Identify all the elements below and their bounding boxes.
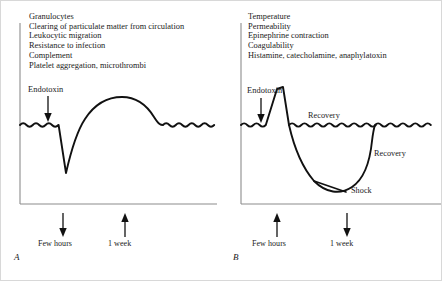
effect-line: Complement (29, 51, 184, 61)
tick-label-few-hours-b: Few hours (252, 239, 286, 249)
tick-label-one-week-b: 1 week (330, 239, 353, 249)
effect-line: Resistance to infection (29, 41, 184, 51)
effect-line: Coagulability (248, 41, 387, 51)
baseline-wave-b (289, 123, 376, 126)
effect-line: Clearing of particulate matter from circ… (29, 22, 184, 32)
endotoxin-label-b: Endotoxin (247, 86, 282, 96)
shock-label-b: Shock (351, 186, 372, 196)
panel-letter-b: B (233, 252, 239, 262)
effect-line: Permeability (248, 22, 387, 32)
tick-arrow-one-week-b (343, 213, 350, 237)
response-curve-b (241, 87, 431, 192)
panel-a: Granulocytes Clearing of particulate mat… (1, 1, 222, 281)
recovery-label-lower-b: Recovery (374, 149, 406, 159)
effects-list-b: Temperature Permeability Epinephrine con… (248, 12, 387, 61)
tick-label-few-hours-a: Few hours (38, 239, 72, 249)
effect-line: Epinephrine contraction (248, 31, 387, 41)
effects-list-a: Granulocytes Clearing of particulate mat… (29, 12, 184, 70)
endotoxin-arrow-a (44, 96, 51, 122)
recovery-label-upper-b: Recovery (308, 111, 340, 121)
tick-arrow-few-hours-b (273, 213, 280, 237)
tick-arrow-one-week-a (121, 213, 128, 237)
response-curve-a (20, 97, 214, 173)
panel-letter-a: A (14, 252, 20, 262)
tick-label-one-week-a: 1 week (108, 239, 131, 249)
endotoxin-arrow-b (257, 98, 264, 123)
effect-line: Leukocytic migration (29, 31, 184, 41)
figure-container: Granulocytes Clearing of particulate mat… (0, 0, 442, 281)
effect-line: Granulocytes (29, 12, 184, 22)
tick-arrow-few-hours-a (59, 213, 66, 237)
effect-line: Platelet aggregation, microthrombi (29, 61, 184, 71)
panel-b: Temperature Permeability Epinephrine con… (222, 1, 442, 281)
endotoxin-label-a: Endotoxin (28, 85, 63, 95)
effect-line: Temperature (248, 12, 387, 22)
effect-line: Histamine, catecholamine, anaphylatoxin (248, 51, 387, 61)
